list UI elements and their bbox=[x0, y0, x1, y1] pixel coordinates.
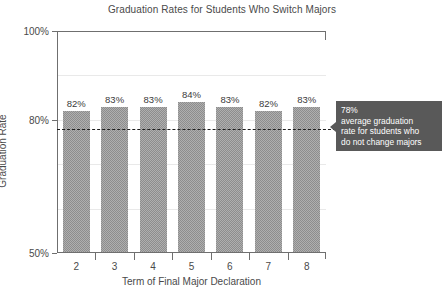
x-axis-tick bbox=[211, 253, 212, 260]
callout-line-1: 78% bbox=[341, 105, 439, 116]
y-axis-title: Graduation Rate bbox=[0, 114, 8, 187]
y-axis-tick bbox=[52, 120, 57, 121]
bar-value-label: 82% bbox=[248, 98, 288, 109]
x-axis-tick bbox=[249, 253, 250, 260]
bar bbox=[255, 111, 282, 252]
gridline bbox=[58, 75, 326, 76]
y-axis-tick-label: 100% bbox=[23, 26, 49, 37]
y-axis-line bbox=[57, 31, 58, 253]
x-axis-line bbox=[57, 252, 326, 253]
x-axis-tick-label: 3 bbox=[100, 261, 130, 272]
x-axis-tick bbox=[288, 253, 289, 260]
x-axis-tick-label: 2 bbox=[61, 261, 91, 272]
x-axis-tick-label: 6 bbox=[215, 261, 245, 272]
bar-value-label: 82% bbox=[56, 98, 96, 109]
bar bbox=[63, 111, 90, 252]
bar-value-label: 83% bbox=[287, 94, 327, 105]
chart-title: Graduation Rates for Students Who Switch… bbox=[0, 4, 444, 15]
bar-value-label: 84% bbox=[172, 89, 212, 100]
bar-value-label: 83% bbox=[210, 94, 250, 105]
x-axis-tick bbox=[134, 253, 135, 260]
y-axis-tick bbox=[52, 253, 57, 254]
reference-line-callout: 78% average graduation rate for students… bbox=[336, 101, 442, 151]
x-axis-tick-label: 7 bbox=[253, 261, 283, 272]
plot-top-border bbox=[57, 31, 326, 32]
y-axis-tick bbox=[52, 31, 57, 32]
x-axis-tick-label: 4 bbox=[138, 261, 168, 272]
callout-line-2: average graduation bbox=[341, 116, 439, 127]
bar-value-label: 83% bbox=[95, 94, 135, 105]
bar-value-label: 83% bbox=[133, 94, 173, 105]
x-axis-tick bbox=[172, 253, 173, 260]
bar-chart: Graduation Rates for Students Who Switch… bbox=[0, 0, 444, 301]
x-axis-tick bbox=[95, 253, 96, 260]
reference-line-78 bbox=[57, 129, 336, 130]
x-axis-tick-label: 5 bbox=[177, 261, 207, 272]
x-axis-end-tick bbox=[325, 252, 326, 259]
plot-area: 100%80%50% 82%83%83%84%83%82%83% 2345678 bbox=[57, 31, 326, 253]
y-axis-tick-label: 80% bbox=[29, 114, 49, 125]
callout-line-3: rate for students who bbox=[341, 126, 439, 137]
bar bbox=[178, 102, 205, 252]
plot-right-cap bbox=[325, 31, 326, 40]
x-axis-title: Term of Final Major Declaration bbox=[57, 276, 326, 287]
callout-line-4: do not change majors bbox=[341, 137, 439, 148]
y-axis-tick-label: 50% bbox=[29, 248, 49, 259]
x-axis-tick-label: 8 bbox=[292, 261, 322, 272]
